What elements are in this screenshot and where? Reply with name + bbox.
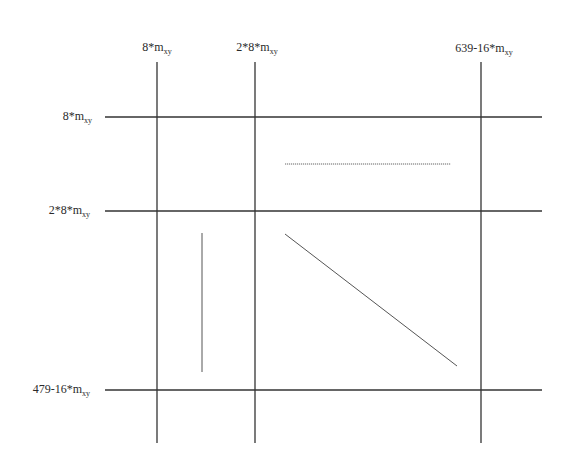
row-label-3-base: 479-16*m xyxy=(33,382,82,396)
column-label-2-sub: xy xyxy=(270,47,278,56)
row-label-3: 479-16*mxy xyxy=(33,382,90,401)
diagonal-segment xyxy=(285,234,457,366)
column-label-2: 2*8*mxy xyxy=(236,40,277,59)
column-label-2-base: 2*8*m xyxy=(236,40,269,54)
row-label-2-base: 2*8*m xyxy=(49,203,82,217)
row-label-1: 8*mxy xyxy=(63,109,92,128)
row-label-2: 2*8*mxy xyxy=(49,203,90,222)
row-label-3-sub: xy xyxy=(82,389,90,398)
column-label-3-sub: xy xyxy=(505,48,513,57)
column-label-1-base: 8*m xyxy=(142,40,163,54)
row-label-2-sub: xy xyxy=(82,210,90,219)
row-label-1-sub: xy xyxy=(84,116,92,125)
column-label-1-sub: xy xyxy=(164,47,172,56)
column-label-3-base: 639-16*m xyxy=(455,41,504,55)
grid-diagram: 8*mxy 2*8*mxy 639-16*mxy 8*mxy 2*8*mxy 4… xyxy=(0,0,567,471)
column-label-1: 8*mxy xyxy=(142,40,171,59)
row-label-1-base: 8*m xyxy=(63,109,84,123)
column-label-3: 639-16*mxy xyxy=(455,41,512,60)
